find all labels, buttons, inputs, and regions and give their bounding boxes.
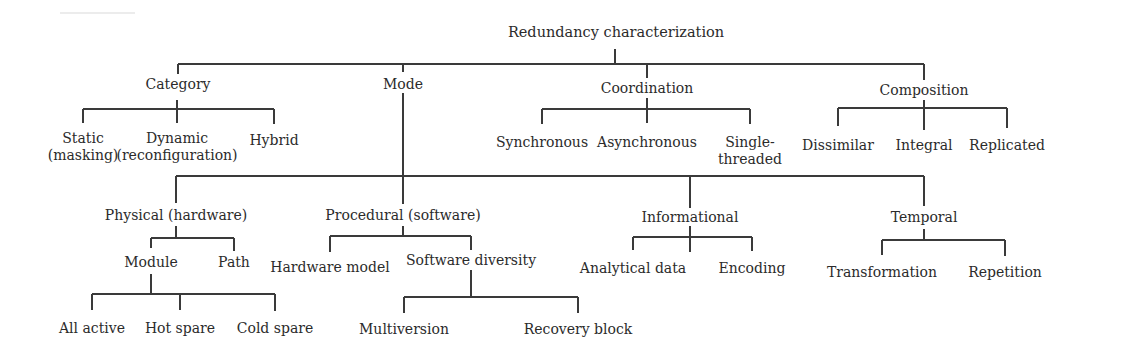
node-label: Integral <box>896 137 953 153</box>
node-integral: Integral <box>896 137 953 154</box>
node-label: Synchronous <box>496 134 588 150</box>
node-label: Multiversion <box>359 321 449 337</box>
node-hot-spare: Hot spare <box>145 320 215 337</box>
node-encoding: Encoding <box>719 260 786 277</box>
node-hardware-model: Hardware model <box>270 259 389 276</box>
node-label-line1: Dynamic <box>116 130 237 147</box>
node-coordination: Coordination <box>601 80 694 97</box>
node-single-threaded: Single- threaded <box>718 134 782 168</box>
node-label: Encoding <box>719 260 786 276</box>
node-software-diversity: Software diversity <box>406 252 536 269</box>
node-label: Analytical data <box>580 260 686 276</box>
node-physical-hardware: Physical (hardware) <box>105 207 247 224</box>
node-static-masking: Static (masking) <box>48 130 119 164</box>
node-label-line2: (masking) <box>48 147 119 164</box>
node-label: Replicated <box>969 137 1045 153</box>
node-multiversion: Multiversion <box>359 321 449 338</box>
node-label: Cold spare <box>237 320 314 336</box>
node-analytical-data: Analytical data <box>580 260 686 277</box>
node-label: Recovery block <box>524 321 633 337</box>
redundancy-tree-diagram: Redundancy characterization Category Mod… <box>0 0 1126 360</box>
node-label: Asynchronous <box>597 134 697 150</box>
node-label: Hardware model <box>270 259 389 275</box>
node-synchronous: Synchronous <box>496 134 588 151</box>
node-label: Repetition <box>968 264 1042 280</box>
node-mode: Mode <box>383 76 423 93</box>
node-composition-label: Composition <box>879 82 968 98</box>
node-root-label: Redundancy characterization <box>508 24 724 40</box>
node-label: Dissimilar <box>802 137 874 153</box>
connector-lines <box>0 0 1126 360</box>
node-temporal: Temporal <box>891 209 958 226</box>
node-mode-label: Mode <box>383 76 423 92</box>
node-category-label: Category <box>146 76 211 92</box>
node-replicated: Replicated <box>969 137 1045 154</box>
node-label-line1: Static <box>48 130 119 147</box>
node-informational: Informational <box>642 209 739 226</box>
node-label-line2: (reconfiguration) <box>116 147 237 164</box>
node-label: Temporal <box>891 209 958 225</box>
node-composition: Composition <box>879 82 968 99</box>
node-recovery-block: Recovery block <box>524 321 633 338</box>
node-root: Redundancy characterization <box>508 24 724 41</box>
node-label: Path <box>218 254 250 270</box>
node-procedural-software: Procedural (software) <box>325 207 480 224</box>
node-asynchronous: Asynchronous <box>597 134 697 151</box>
node-dissimilar: Dissimilar <box>802 137 874 154</box>
node-label: Transformation <box>827 264 937 280</box>
node-label-line2: threaded <box>718 151 782 168</box>
node-label: Informational <box>642 209 739 225</box>
node-label: All active <box>59 320 125 336</box>
node-repetition: Repetition <box>968 264 1042 281</box>
node-dynamic-reconfiguration: Dynamic (reconfiguration) <box>116 130 237 164</box>
node-label: Software diversity <box>406 252 536 268</box>
node-hybrid: Hybrid <box>249 132 298 149</box>
node-label: Hot spare <box>145 320 215 336</box>
node-label: Procedural (software) <box>325 207 480 223</box>
node-cold-spare: Cold spare <box>237 320 314 337</box>
node-category: Category <box>146 76 211 93</box>
node-coordination-label: Coordination <box>601 80 694 96</box>
node-label: Physical (hardware) <box>105 207 247 223</box>
node-label-line1: Single- <box>718 134 782 151</box>
node-transformation: Transformation <box>827 264 937 281</box>
node-label: Module <box>124 254 178 270</box>
node-label: Hybrid <box>249 132 298 148</box>
node-path: Path <box>218 254 250 271</box>
node-all-active: All active <box>59 320 125 337</box>
node-module: Module <box>124 254 178 271</box>
